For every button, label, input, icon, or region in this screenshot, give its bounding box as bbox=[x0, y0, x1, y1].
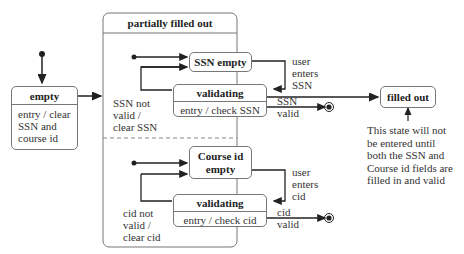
composite-state-title: partially filled out bbox=[103, 17, 237, 29]
state-validating-cid-activity: entry / check cid bbox=[174, 211, 266, 228]
transition-ssn-not-valid: SSN not valid / clear SSN bbox=[113, 97, 157, 133]
transition-user-enters-ssn: user enters SSN bbox=[292, 55, 318, 91]
state-ssn-empty-title: SSN empty bbox=[190, 53, 251, 68]
state-filled-out-title: filled out bbox=[381, 87, 435, 103]
state-course-id-empty: Course id empty bbox=[189, 146, 252, 179]
state-empty-title: empty bbox=[12, 87, 77, 104]
transition-ssn-valid: SSN valid bbox=[277, 95, 299, 119]
state-empty: empty entry / clear SSN and course id bbox=[11, 86, 78, 150]
state-filled-out: filled out bbox=[380, 86, 436, 108]
transition-cid-not-valid: cid not valid / clear cid bbox=[123, 207, 161, 243]
state-validating-ssn: validating entry / check SSN bbox=[173, 84, 267, 117]
transition-cid-valid: cid valid bbox=[277, 206, 299, 230]
state-ssn-empty: SSN empty bbox=[189, 52, 252, 72]
state-validating-cid-title: validating bbox=[174, 195, 266, 211]
state-empty-activity: entry / clear SSN and course id bbox=[12, 104, 77, 147]
state-validating-ssn-title: validating bbox=[174, 85, 266, 101]
transition-user-enters-cid: user enters cid bbox=[292, 166, 318, 202]
state-course-id-empty-title: Course id empty bbox=[190, 147, 251, 176]
state-validating-ssn-activity: entry / check SSN bbox=[174, 101, 266, 118]
note-filled-out: This state will not be entered until bot… bbox=[367, 124, 453, 187]
state-validating-cid: validating entry / check cid bbox=[173, 194, 267, 227]
